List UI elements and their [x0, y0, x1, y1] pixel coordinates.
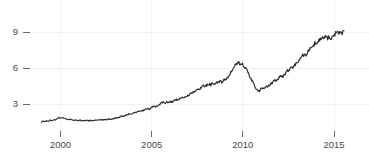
data-series-group — [41, 31, 344, 123]
x-axis: 2000200520102015 — [50, 131, 345, 150]
y-axis-tick-label: 3 — [13, 98, 18, 109]
x-axis-tick-label: 2000 — [50, 139, 71, 150]
x-axis-tick-label: 2010 — [232, 139, 253, 150]
x-axis-tick-label: 2005 — [141, 139, 162, 150]
x-axis-tick-label: 2015 — [323, 139, 344, 150]
chart-plot-area: 369 2000200520102015 — [0, 0, 369, 159]
data-series-line — [41, 31, 344, 123]
horizontal-gridlines — [30, 0, 369, 104]
y-axis-tick-label: 9 — [13, 26, 18, 37]
line-chart: 369 2000200520102015 — [0, 0, 369, 159]
y-axis: 369 — [13, 26, 30, 109]
vertical-gridlines — [61, 0, 335, 131]
y-axis-tick-label: 6 — [13, 62, 18, 73]
